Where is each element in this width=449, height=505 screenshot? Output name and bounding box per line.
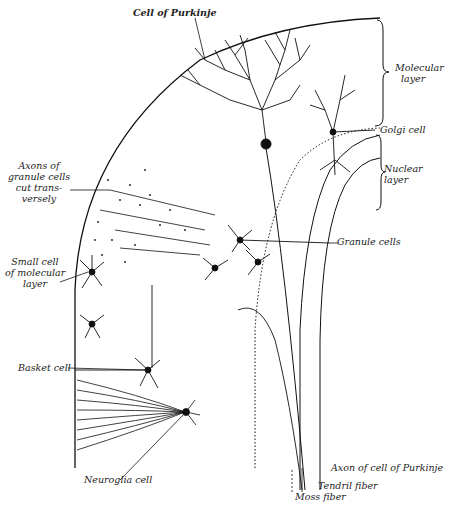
cerebellum-diagram: Cell of Purkinje Molecular layer Golgi c… xyxy=(0,0,449,505)
granule-cells xyxy=(203,225,330,280)
label-golgi-cell: Golgi cell xyxy=(380,124,426,135)
label-cell-of-purkinje: Cell of Purkinje xyxy=(133,7,217,18)
label-neuroglia-cell: Neuroglia cell xyxy=(84,474,152,485)
golgi-cell xyxy=(310,75,375,175)
neuroglia-fibers xyxy=(77,380,200,480)
label-granule-cells: Granule cells xyxy=(337,236,401,247)
label-tendril-fiber: Tendril fiber xyxy=(318,480,378,491)
layer-boundary-dotted xyxy=(255,128,380,468)
label-line: of molecular xyxy=(5,267,65,278)
axon-stippling xyxy=(94,169,186,263)
purkinje-dendrites xyxy=(180,30,310,142)
white-matter-line xyxy=(300,135,380,490)
label-line: granule cells xyxy=(8,171,70,182)
purkinje-cell-body xyxy=(261,139,271,149)
label-line: Small cell xyxy=(5,256,65,267)
purkinje-axon xyxy=(266,148,305,490)
illustration xyxy=(0,0,449,505)
label-line: Nuclear xyxy=(384,163,423,174)
tendril-fiber xyxy=(238,308,302,490)
label-line: versely xyxy=(8,193,70,204)
label-nuclear-layer: Nuclear layer xyxy=(384,163,423,185)
label-small-cell-of-molecular-layer: Small cell of molecular layer xyxy=(5,256,65,289)
label-line: Axons of xyxy=(8,160,70,171)
label-molecular-layer: Molecular layer xyxy=(395,62,444,84)
label-line: cut trans- xyxy=(8,182,70,193)
small-cell-molecular xyxy=(80,255,104,338)
label-line: layer xyxy=(5,278,65,289)
label-line: layer xyxy=(384,174,423,185)
label-moss-fiber: Moss fiber xyxy=(295,491,346,502)
white-matter-line xyxy=(320,158,380,490)
label-axons-of-granule-cells: Axons of granule cells cut trans- versel… xyxy=(8,160,70,204)
basket-cell xyxy=(75,285,160,388)
parallel-fibers xyxy=(100,190,215,255)
label-line: Molecular xyxy=(395,62,444,73)
label-axon-of-cell-of-purkinje: Axon of cell of Purkinje xyxy=(331,462,443,473)
label-basket-cell: Basket cell xyxy=(18,362,71,373)
brace-molecular xyxy=(375,20,389,126)
label-line: layer xyxy=(395,73,444,84)
